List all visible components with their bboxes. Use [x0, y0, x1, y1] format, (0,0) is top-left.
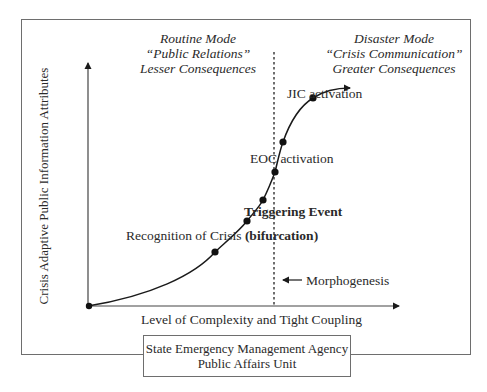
bifurcation-text: (bifurcation)	[245, 228, 318, 243]
organization-unit: Public Affairs Unit	[144, 356, 350, 371]
recognition-of-crisis-label: Recognition of Crisis (bifurcation)	[126, 228, 318, 244]
eoc-dot	[271, 168, 278, 175]
routine-mode-title: Routine Mode	[118, 31, 278, 46]
disaster-mode-title: Disaster Mode	[299, 31, 487, 46]
recognition-dot	[211, 248, 218, 255]
y-axis-label: Crisis Adaptive Public Information Attri…	[36, 68, 52, 305]
disaster-mode-consequence: Greater Consequences	[299, 61, 487, 76]
recognition-text: Recognition of Crisis	[126, 228, 245, 243]
disaster-mode-subtitle: “Crisis Communication”	[299, 46, 487, 61]
x-axis-label: Level of Complexity and Tight Coupling	[141, 312, 362, 328]
origin-dot	[86, 303, 92, 309]
pre-eoc-dot	[259, 196, 266, 203]
triggering-event-label: Triggering Event	[244, 204, 342, 220]
organization-box: State Emergency Management Agency Public…	[143, 335, 351, 377]
eoc-activation-label: EOC activation	[250, 151, 334, 167]
disaster-mode-label: Disaster Mode “Crisis Communication” Gre…	[299, 31, 487, 76]
organization-name: State Emergency Management Agency	[144, 341, 350, 356]
routine-mode-subtitle: “Public Relations”	[118, 46, 278, 61]
morphogenesis-label: Morphogenesis	[306, 273, 389, 289]
routine-mode-consequence: Lesser Consequences	[118, 61, 278, 76]
jic-activation-label: JIC activation	[287, 86, 362, 102]
routine-mode-label: Routine Mode “Public Relations” Lesser C…	[118, 31, 278, 76]
post-eoc-dot	[279, 138, 286, 145]
